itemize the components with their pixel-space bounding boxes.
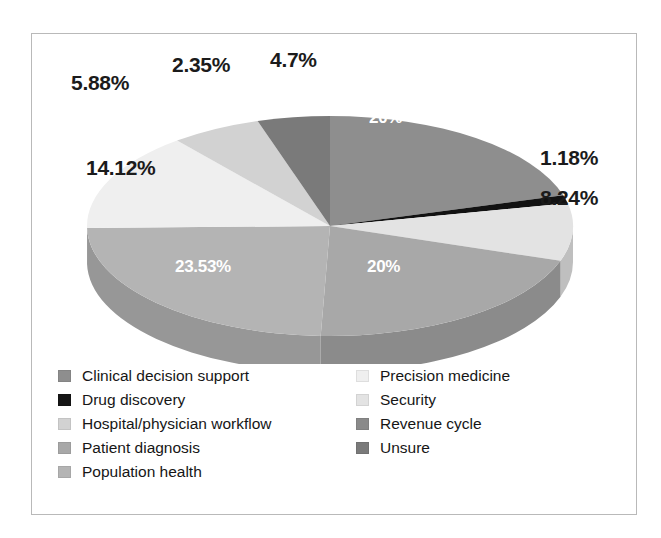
legend-swatch-icon bbox=[356, 394, 369, 406]
chart-frame: 5.88% 2.35% 4.7% 14.12% 1.18% 8.24% 20% … bbox=[31, 33, 637, 515]
legend-swatch-icon bbox=[58, 370, 71, 382]
legend-item[interactable]: Population health bbox=[58, 460, 272, 484]
pct-label-hospital-workflow: 5.88% bbox=[71, 71, 129, 95]
chart-legend: Clinical decision supportDrug discoveryH… bbox=[32, 364, 638, 514]
legend-label: Revenue cycle bbox=[380, 416, 482, 432]
legend-column-left: Clinical decision supportDrug discoveryH… bbox=[58, 364, 272, 484]
legend-label: Clinical decision support bbox=[82, 368, 249, 384]
legend-item[interactable]: Precision medicine bbox=[356, 364, 510, 388]
pct-label-drug-discovery: 1.18% bbox=[540, 146, 598, 170]
legend-item[interactable]: Unsure bbox=[356, 436, 510, 460]
legend-swatch-icon bbox=[356, 370, 369, 382]
legend-label: Unsure bbox=[380, 440, 430, 456]
legend-swatch-icon bbox=[356, 442, 369, 454]
pct-label-population-health: 23.53% bbox=[175, 257, 231, 277]
legend-label: Security bbox=[380, 392, 436, 408]
legend-item[interactable]: Clinical decision support bbox=[58, 364, 272, 388]
legend-swatch-icon bbox=[58, 418, 71, 430]
pct-label-security: 8.24% bbox=[540, 186, 598, 210]
legend-column-right: Precision medicineSecurityRevenue cycleU… bbox=[356, 364, 510, 460]
legend-item[interactable]: Security bbox=[356, 388, 510, 412]
legend-item[interactable]: Patient diagnosis bbox=[58, 436, 272, 460]
legend-swatch-icon bbox=[58, 466, 71, 478]
pct-label-patient-diagnosis: 20% bbox=[367, 257, 400, 277]
legend-swatch-icon bbox=[58, 394, 71, 406]
legend-label: Population health bbox=[82, 464, 202, 480]
pct-label-unsure: 4.7% bbox=[270, 48, 317, 72]
pct-label-precision-medicine: 14.12% bbox=[86, 156, 155, 180]
pie-chart-area: 5.88% 2.35% 4.7% 14.12% 1.18% 8.24% 20% … bbox=[32, 34, 638, 364]
legend-label: Drug discovery bbox=[82, 392, 185, 408]
legend-swatch-icon bbox=[356, 418, 369, 430]
pct-label-small-wedge: 2.35% bbox=[172, 53, 230, 77]
legend-item[interactable]: Revenue cycle bbox=[356, 412, 510, 436]
legend-label: Hospital/physician workflow bbox=[82, 416, 272, 432]
legend-label: Precision medicine bbox=[380, 368, 510, 384]
legend-item[interactable]: Drug discovery bbox=[58, 388, 272, 412]
legend-swatch-icon bbox=[58, 442, 71, 454]
legend-label: Patient diagnosis bbox=[82, 440, 200, 456]
pct-label-clinical-decision-support: 20% bbox=[369, 108, 402, 128]
pie-top-faces bbox=[87, 116, 573, 336]
legend-item[interactable]: Hospital/physician workflow bbox=[58, 412, 272, 436]
